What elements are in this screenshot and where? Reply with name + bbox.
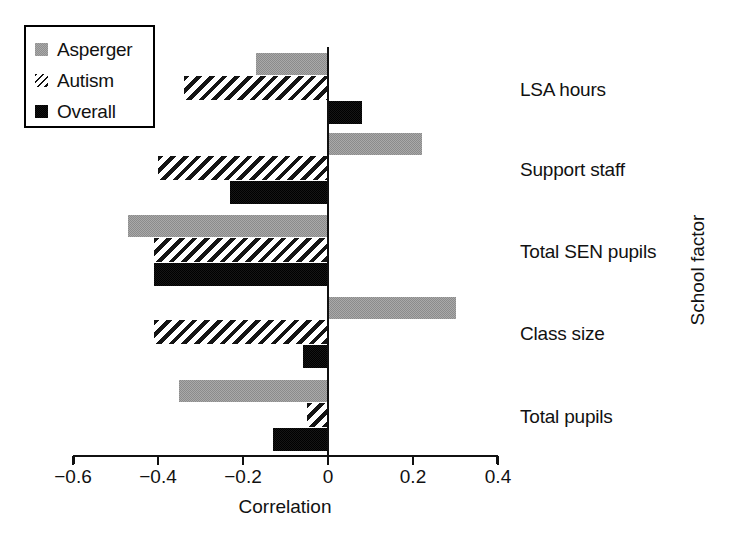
bar-overall [230,181,328,204]
x-tick-label: 0 [323,467,334,486]
bar-overall [303,345,329,368]
bar-overall [328,101,362,124]
bar-asperger [328,133,422,155]
x-tick [412,456,414,465]
legend-label-asperger: Asperger [57,40,133,59]
x-tick-label: 0.2 [400,467,426,486]
x-tick [157,456,159,465]
x-tick-label: −0.4 [139,467,177,486]
x-tick-label: 0.4 [485,467,511,486]
x-axis-line [73,455,498,457]
legend-item-overall: Overall [35,96,153,127]
bar-asperger [256,53,328,75]
legend-item-autism: Autism [35,65,153,96]
category-label: Total pupils [520,407,613,426]
bar-chart: Asperger Autism Overall −0.6−0.4−0.200.2… [0,0,743,548]
x-tick [242,456,244,465]
x-tick [72,456,74,465]
x-axis-title: Correlation [0,497,570,516]
category-label: Class size [520,324,605,343]
bar-asperger [128,215,328,237]
x-tick-label: −0.2 [224,467,262,486]
bar-overall [154,263,328,286]
hatched-square-icon [35,74,48,87]
category-label: Total SEN pupils [520,242,656,261]
bar-asperger [328,297,456,319]
bar-overall [273,428,328,451]
y-axis-title: School factor [688,215,707,326]
bar-autism [154,320,328,344]
legend-label-overall: Overall [57,102,116,121]
x-tick [497,456,499,465]
x-tick-label: −0.6 [54,467,92,486]
bar-autism [154,238,328,262]
x-tick [327,456,329,465]
bar-asperger [179,380,328,402]
bar-autism [307,403,328,427]
zero-reference-line [327,47,329,455]
chart-legend: Asperger Autism Overall [24,25,155,128]
bar-autism [158,156,328,180]
legend-item-asperger: Asperger [35,34,153,65]
category-label: Support staff [520,160,625,179]
bar-autism [184,76,329,100]
light-gray-square-icon [35,43,48,56]
category-label: LSA hours [520,80,606,99]
legend-label-autism: Autism [57,71,114,90]
black-square-icon [35,105,48,118]
